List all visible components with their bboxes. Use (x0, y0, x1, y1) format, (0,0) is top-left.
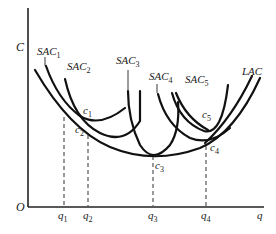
svg-text:SAC5: SAC5 (185, 73, 209, 88)
sac4-label: SAC4 (149, 70, 173, 85)
svg-text:c1: c1 (83, 104, 92, 119)
svg-text:c2: c2 (75, 123, 84, 138)
lac-label: LAC (241, 65, 263, 77)
sac1-label: SAC1 (37, 45, 61, 60)
c3-label: c3 (155, 159, 164, 174)
svg-text:c3: c3 (155, 159, 164, 174)
y-axis-label: C (16, 40, 25, 54)
x-axis-label: q (257, 209, 263, 221)
svg-text:q1: q1 (58, 209, 68, 224)
svg-text:q4: q4 (201, 209, 211, 224)
svg-text:q3: q3 (148, 209, 158, 224)
svg-text:c4: c4 (210, 141, 219, 156)
svg-text:c5: c5 (202, 108, 211, 123)
cost-curves-diagram: C O q SAC1 SAC2 SAC3 SAC4 SAC5 LAC c1 c2… (0, 0, 276, 234)
svg-text:SAC4: SAC4 (149, 70, 173, 85)
c5-label: c5 (202, 108, 211, 123)
q3-label: q3 (148, 209, 158, 224)
lac-curve (35, 70, 260, 156)
q2-label: q2 (83, 209, 93, 224)
sac4-curve (158, 94, 230, 140)
svg-text:LAC: LAC (241, 65, 263, 77)
q1-label: q1 (58, 209, 68, 224)
svg-text:SAC2: SAC2 (67, 60, 91, 75)
svg-text:q2: q2 (83, 209, 93, 224)
sac2-label: SAC2 (67, 60, 91, 75)
c2-label: c2 (75, 123, 84, 138)
sac5-label: SAC5 (185, 73, 209, 88)
c1-label: c1 (83, 104, 92, 119)
svg-text:SAC1: SAC1 (37, 45, 61, 60)
sac3-label: SAC3 (116, 54, 140, 69)
q4-label: q4 (201, 209, 211, 224)
origin-label: O (16, 200, 25, 214)
c4-label: c4 (210, 141, 219, 156)
svg-text:SAC3: SAC3 (116, 54, 140, 69)
